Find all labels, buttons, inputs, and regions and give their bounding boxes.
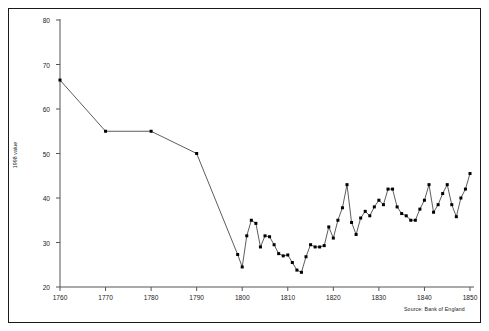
chart-plot-area — [0, 0, 489, 331]
x-tick-label: 1800 — [235, 294, 250, 301]
y-tick-label: 60 — [26, 106, 50, 113]
x-tick-label: 1770 — [98, 294, 113, 301]
x-tick-label: 1810 — [280, 294, 295, 301]
x-tick-label: 1850 — [463, 294, 478, 301]
x-tick-label: 1820 — [326, 294, 341, 301]
x-tick-label: 1790 — [189, 294, 204, 301]
x-tick-label: 1760 — [53, 294, 68, 301]
y-tick-label: 70 — [26, 61, 50, 68]
chart-figure: 1998 value 20304050607080176017701780179… — [0, 0, 489, 331]
y-tick-label: 80 — [26, 17, 50, 24]
y-tick-label: 30 — [26, 239, 50, 246]
y-tick-label: 50 — [26, 150, 50, 157]
x-tick-label: 1780 — [144, 294, 159, 301]
x-tick-label: 1840 — [417, 294, 432, 301]
x-tick-label: 1830 — [372, 294, 387, 301]
y-tick-label: 20 — [26, 284, 50, 291]
y-tick-label: 40 — [26, 195, 50, 202]
source-note: Source: Bank of England — [404, 306, 465, 312]
